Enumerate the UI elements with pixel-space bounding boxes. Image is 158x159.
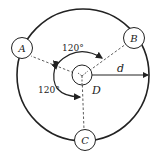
angle-label-ab: 120° xyxy=(62,43,84,53)
node-c-label: C xyxy=(81,135,89,146)
diagram: d 120° 120° D A B C xyxy=(0,0,158,159)
center-circle xyxy=(72,65,92,85)
center-label: D xyxy=(91,84,101,97)
angle-label-ac: 120° xyxy=(38,85,60,95)
angle-arc-ab xyxy=(58,52,102,63)
radius-label: d xyxy=(117,62,124,75)
node-b-label: B xyxy=(129,33,137,44)
node-a-label: A xyxy=(17,43,25,54)
